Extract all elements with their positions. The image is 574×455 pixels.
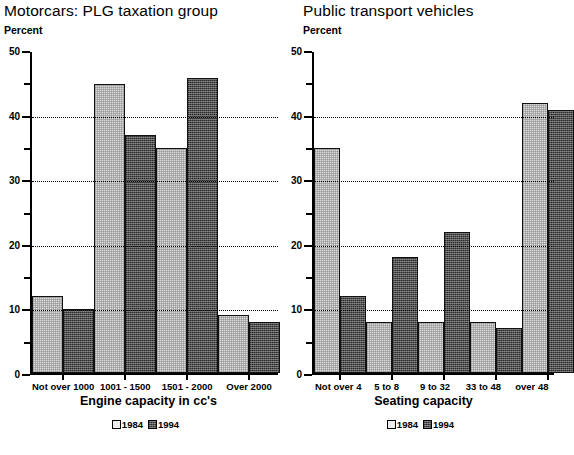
legend: 1984 1994 — [4, 419, 289, 430]
bar-group — [470, 52, 522, 373]
y-axis-tick-label: 40 — [9, 112, 20, 122]
y-axis-minor-tick — [306, 342, 312, 344]
y-axis-minor-tick — [306, 83, 312, 85]
y-axis-tick-label: 20 — [291, 241, 302, 251]
chart-panel-motorcars: Motorcars: PLG taxation group Percent 01… — [0, 0, 285, 455]
x-axis-tick — [124, 373, 126, 380]
x-axis-tick-label: 33 to 48 — [459, 381, 507, 392]
x-axis-tick-labels: Not over 45 to 89 to 3233 to 48over 48 — [314, 381, 556, 392]
bar-1994[interactable] — [249, 322, 280, 373]
y-axis-tick-label: 50 — [9, 47, 20, 57]
bar-1994[interactable] — [392, 257, 418, 373]
light-checkered-swatch — [387, 420, 396, 429]
y-axis-major-tick — [304, 245, 312, 247]
legend-item: 1994 — [423, 419, 454, 430]
y-axis-minor-tick — [24, 342, 30, 344]
bar-group — [418, 52, 470, 373]
page-title: Motorcars: PLG taxation group — [4, 2, 218, 20]
y-axis-major-tick — [22, 180, 30, 182]
x-axis-title: Engine capacity in cc's — [6, 394, 291, 408]
y-axis-minor-tick — [24, 277, 30, 279]
bar-1994[interactable] — [63, 309, 94, 373]
x-axis-line — [312, 373, 554, 375]
bar-1984[interactable] — [418, 322, 444, 373]
bar-1994[interactable] — [496, 328, 522, 373]
x-axis-tick — [391, 373, 393, 380]
x-axis-tick-label: over 48 — [508, 381, 556, 392]
y-axis-tick-label: 30 — [9, 176, 20, 186]
bar-1994[interactable] — [340, 296, 366, 373]
x-axis-tick — [443, 373, 445, 380]
y-axis-major-tick — [22, 116, 30, 118]
bar-group — [156, 52, 218, 373]
bar-groups — [314, 52, 554, 373]
bar-1994[interactable] — [548, 110, 574, 373]
x-axis-tick — [186, 373, 188, 380]
dark-checkered-swatch — [423, 420, 432, 429]
y-axis-major-tick — [304, 309, 312, 311]
legend-item: 1984 — [387, 419, 418, 430]
x-axis-tick — [62, 373, 64, 380]
y-axis-tick-label: 10 — [9, 305, 20, 315]
bar-1994[interactable] — [125, 135, 156, 373]
x-axis-tick — [339, 373, 341, 380]
y-axis-tick-label: 30 — [291, 176, 302, 186]
bar-group — [522, 52, 574, 373]
x-axis-tick-label: 5 to 8 — [362, 381, 410, 392]
bar-1984[interactable] — [522, 103, 548, 373]
y-axis-tick-label: 0 — [296, 370, 302, 380]
gridline — [314, 246, 554, 247]
legend: 1984 1994 — [287, 419, 556, 430]
x-axis-title: Seating capacity — [289, 394, 558, 408]
y-axis-major-tick — [22, 309, 30, 311]
y-axis-major-tick — [22, 245, 30, 247]
plot-area: 01020304050 — [30, 52, 278, 375]
y-axis-tick-label: 10 — [291, 305, 302, 315]
x-axis-line — [30, 373, 278, 375]
y-axis-title: Percent — [303, 24, 342, 36]
y-axis-major-tick — [304, 374, 312, 376]
y-axis-minor-tick — [24, 83, 30, 85]
y-axis-major-tick — [304, 180, 312, 182]
bar-group — [32, 52, 94, 373]
bar-1984[interactable] — [470, 322, 496, 373]
y-axis-minor-tick — [24, 148, 30, 150]
bar-1984[interactable] — [218, 315, 249, 373]
y-axis-tick-label: 20 — [9, 241, 20, 251]
y-axis-tick-label: 40 — [291, 112, 302, 122]
y-axis-major-tick — [304, 51, 312, 53]
bar-group — [314, 52, 366, 373]
bar-1984[interactable] — [366, 322, 392, 373]
legend-label: 1984 — [397, 419, 418, 430]
bar-group — [366, 52, 418, 373]
gridline — [314, 310, 554, 311]
bar-1994[interactable] — [187, 78, 218, 373]
gridline — [32, 117, 278, 118]
gridline — [32, 310, 278, 311]
y-axis-minor-tick — [306, 213, 312, 215]
bar-1984[interactable] — [94, 84, 125, 373]
y-axis-tick-label: 50 — [291, 47, 302, 57]
bar-group — [218, 52, 280, 373]
bar-1984[interactable] — [32, 296, 63, 373]
x-axis-tick — [495, 373, 497, 380]
x-axis-tick-label: Not over 4 — [314, 381, 362, 392]
legend-item: 1984 — [112, 419, 143, 430]
x-axis-tick-label: 1001 - 1500 — [94, 381, 156, 392]
x-axis-tick-label: Not over 1000 — [32, 381, 94, 392]
gridline — [314, 181, 554, 182]
y-axis-major-tick — [22, 374, 30, 376]
x-axis-tick-label: Over 2000 — [218, 381, 280, 392]
legend-label: 1984 — [122, 419, 143, 430]
bar-1994[interactable] — [444, 232, 470, 373]
gridline — [314, 117, 554, 118]
x-axis-tick-labels: Not over 10001001 - 15001501 - 2000Over … — [32, 381, 280, 392]
y-axis-minor-tick — [306, 277, 312, 279]
light-checkered-swatch — [112, 420, 121, 429]
x-axis-tick-label: 1501 - 2000 — [156, 381, 218, 392]
chart-panel-public-transport: Public transport vehicles Percent 010203… — [285, 0, 554, 455]
y-axis-tick-label: 0 — [14, 370, 20, 380]
plot-area: 01020304050 — [312, 52, 554, 375]
bar-group — [94, 52, 156, 373]
x-axis-tick-label: 9 to 32 — [411, 381, 459, 392]
